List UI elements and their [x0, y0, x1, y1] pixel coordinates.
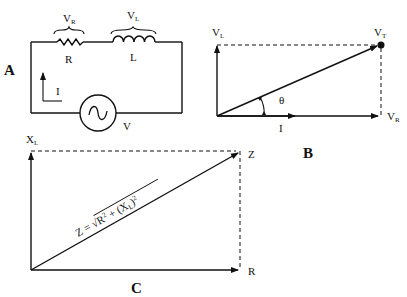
vl-label: VL — [127, 9, 139, 23]
vt-vector — [217, 46, 377, 116]
current-phasor-label: I — [279, 122, 283, 134]
impedance-formula: Z = √R2 + (XL)2 — [73, 179, 166, 240]
vt-phasor-label: VT — [374, 26, 387, 40]
panel-a-label: A — [4, 62, 15, 78]
panel-b-voltage-phasors: VL VT VR θ I B — [212, 26, 400, 161]
rl-circuit-figure: A VR R VL L V — [0, 0, 407, 297]
r-label: R — [248, 265, 256, 277]
panel-c-label: C — [131, 280, 142, 296]
inductor-symbol: VL L — [111, 9, 156, 63]
svg-text:Z = √R2 + (XL)2: Z = √R2 + (XL)2 — [73, 194, 141, 241]
vr-brace — [54, 27, 84, 34]
vl-brace — [111, 27, 156, 34]
panel-a-circuit: A VR R VL L V — [4, 9, 182, 132]
vr-label: VR — [63, 12, 76, 26]
theta-label: θ — [279, 94, 284, 106]
vt-point — [378, 42, 385, 49]
source-label: V — [123, 120, 131, 132]
vl-phasor-label: VL — [212, 26, 224, 40]
inductor-label: L — [130, 51, 137, 63]
panel-c-impedance-triangle: XL Z R Z = √R2 + (XL)2 C — [26, 133, 256, 296]
z-label: Z — [248, 148, 255, 160]
vr-phasor-label: VR — [387, 110, 400, 124]
current-direction-arrow: I — [43, 73, 62, 101]
panel-b-label: B — [303, 145, 313, 161]
xl-label: XL — [26, 133, 38, 147]
resistor-label: R — [65, 53, 73, 65]
z-vector — [31, 153, 238, 270]
current-label: I — [56, 85, 60, 97]
resistor-symbol: VR R — [54, 12, 84, 65]
